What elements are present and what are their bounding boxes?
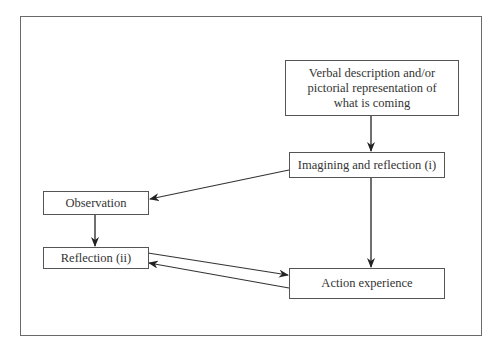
node-reflection-label: Reflection (ii): [61, 251, 131, 266]
node-observation: Observation: [43, 191, 149, 215]
node-observation-label: Observation: [65, 196, 126, 211]
edge-imagining-to-observation: [150, 170, 289, 199]
node-imagining-reflection: Imagining and reflection (i): [289, 152, 445, 178]
edge-action-to-reflection: [149, 263, 289, 288]
node-action-label: Action experience: [321, 276, 412, 291]
node-verbal-line3: what is coming: [334, 96, 410, 111]
node-action-experience: Action experience: [289, 268, 445, 299]
node-verbal-line2: pictorial representation of: [307, 81, 436, 96]
edge-reflection-to-action: [148, 253, 288, 275]
node-reflection: Reflection (ii): [43, 247, 149, 269]
node-verbal-description: Verbal description and/or pictorial repr…: [285, 60, 459, 116]
node-verbal-line1: Verbal description and/or: [309, 66, 435, 81]
node-imagining-label: Imagining and reflection (i): [298, 158, 437, 173]
